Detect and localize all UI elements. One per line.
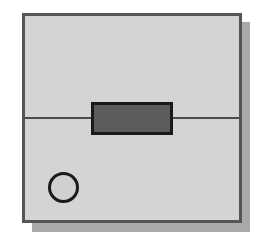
panel [22, 13, 242, 223]
slot-rectangle [91, 102, 173, 135]
circle-indicator-icon [48, 172, 79, 203]
